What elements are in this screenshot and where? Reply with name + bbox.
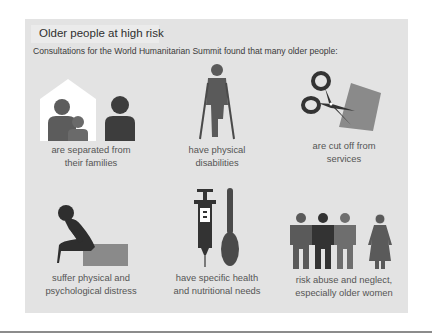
men-and-older-woman-icon: [284, 213, 404, 271]
distressed-person-icon: [51, 203, 131, 269]
item-distress: suffer physical and psychological distre…: [27, 203, 155, 297]
item-label-line2: services: [280, 153, 408, 166]
person-on-crutches-icon: [187, 63, 247, 141]
item-label-line2: disabilities: [153, 157, 281, 170]
item-physical-disabilities: have physical disabilities: [153, 63, 281, 169]
infographic-panel: Older people at high risk Consultations …: [25, 19, 408, 313]
scissors-cutting-paper-icon: [299, 67, 389, 137]
item-label-line1: are separated from: [27, 144, 155, 157]
item-label-line2: especially older women: [280, 287, 408, 300]
item-abuse-neglect: risk abuse and neglect, especially older…: [280, 213, 408, 299]
item-label-line2: psychological distress: [27, 285, 155, 298]
panel-title: Older people at high risk: [39, 27, 164, 39]
item-label-line1: have specific health: [153, 272, 281, 285]
item-separated-families: are separated from their families: [27, 75, 155, 169]
item-health-nutrition: have specific health and nutritional nee…: [153, 187, 281, 297]
item-label-line2: their families: [27, 157, 155, 170]
family-separated-icon: [36, 75, 146, 141]
bottom-divider: [0, 331, 432, 333]
item-label-line1: have physical: [153, 144, 281, 157]
item-label-line1: suffer physical and: [27, 272, 155, 285]
item-label-line1: risk abuse and neglect,: [280, 274, 408, 287]
item-cut-off-services: are cut off from services: [280, 67, 408, 165]
item-label-line1: are cut off from: [280, 140, 408, 153]
syringe-and-spoon-icon: [187, 187, 247, 269]
item-label-line2: and nutritional needs: [153, 285, 281, 298]
panel-subtitle: Consultations for the World Humanitarian…: [33, 46, 338, 56]
